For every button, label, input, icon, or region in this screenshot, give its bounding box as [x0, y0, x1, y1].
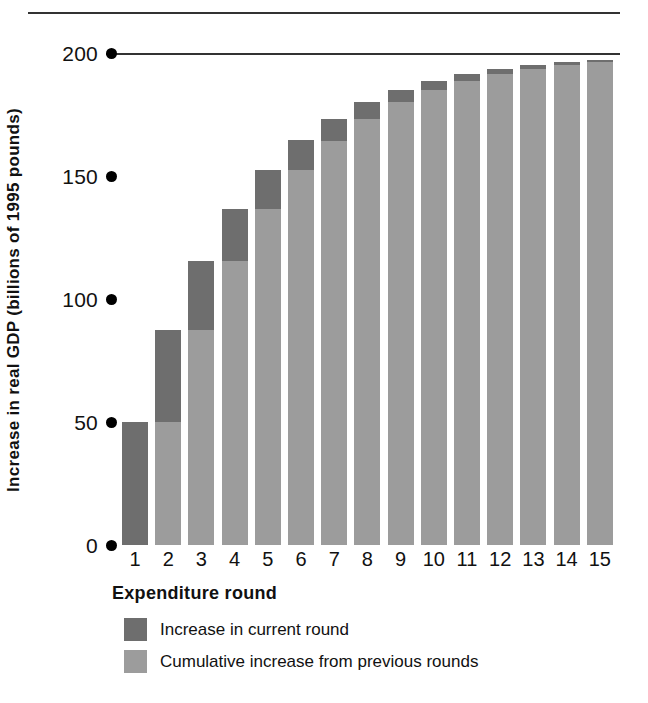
bar-segment-current-round — [388, 90, 414, 102]
bar-segment-current-round — [255, 170, 281, 209]
x-tick-label-4: 4 — [218, 548, 252, 570]
plot-area: 050100150200 — [0, 0, 648, 600]
x-tick-label-1: 1 — [118, 548, 152, 570]
x-tick-label-2: 2 — [151, 548, 185, 570]
bar-segment-cumulative — [321, 141, 347, 545]
bar-round-8 — [354, 102, 380, 545]
legend-item-1: Increase in current round — [124, 618, 478, 641]
y-tick-dot-icon — [106, 48, 117, 59]
legend-swatch-icon — [124, 650, 147, 673]
bar-segment-current-round — [354, 102, 380, 118]
x-tick-label-8: 8 — [350, 548, 384, 570]
y-axis-title: Increase in real GDP (billions of 1995 p… — [4, 0, 24, 600]
bar-round-2 — [155, 330, 181, 545]
bar-segment-cumulative — [421, 90, 447, 545]
bar-round-14 — [554, 62, 580, 545]
bar-segment-current-round — [122, 422, 148, 545]
bar-round-3 — [188, 261, 214, 545]
y-tick-label: 100 — [62, 289, 98, 310]
bar-segment-cumulative — [487, 74, 513, 545]
x-tick-label-6: 6 — [284, 548, 318, 570]
bar-segment-current-round — [155, 330, 181, 422]
bar-segment-current-round — [288, 140, 314, 169]
bar-segment-cumulative — [188, 330, 214, 545]
y-tick-label: 200 — [62, 43, 98, 64]
x-axis-tick-labels: 123456789101112131415 — [0, 548, 648, 578]
bar-round-5 — [255, 170, 281, 545]
bar-segment-cumulative — [155, 422, 181, 545]
bar-segment-current-round — [222, 209, 248, 261]
x-tick-label-13: 13 — [516, 548, 550, 570]
bar-segment-current-round — [454, 74, 480, 81]
legend-label: Increase in current round — [160, 621, 349, 638]
y-tick-label: 50 — [74, 412, 98, 433]
bar-round-11 — [454, 74, 480, 545]
bar-segment-cumulative — [520, 69, 546, 546]
y-tick-dot-icon — [106, 417, 117, 428]
bar-round-10 — [421, 81, 447, 545]
bar-round-12 — [487, 69, 513, 546]
multiplier-bar-chart-figure: 050100150200 Increase in real GDP (billi… — [0, 0, 648, 703]
y-tick-dot-icon — [106, 294, 117, 305]
bar-segment-current-round — [188, 261, 214, 330]
bar-round-4 — [222, 209, 248, 545]
x-tick-label-7: 7 — [317, 548, 351, 570]
bar-segment-cumulative — [288, 170, 314, 545]
bar-segment-current-round — [421, 81, 447, 90]
bar-round-9 — [388, 90, 414, 545]
x-tick-label-9: 9 — [384, 548, 418, 570]
bar-segment-cumulative — [255, 209, 281, 545]
legend-item-2: Cumulative increase from previous rounds — [124, 650, 478, 673]
bar-round-1 — [122, 422, 148, 545]
x-tick-label-12: 12 — [483, 548, 517, 570]
x-tick-label-3: 3 — [184, 548, 218, 570]
bar-segment-cumulative — [454, 81, 480, 545]
y-tick-dot-icon — [106, 171, 117, 182]
bar-segment-current-round — [321, 119, 347, 141]
bar-segment-cumulative — [222, 261, 248, 545]
x-tick-label-15: 15 — [583, 548, 617, 570]
bar-segment-cumulative — [388, 102, 414, 545]
legend-swatch-icon — [124, 618, 147, 641]
x-tick-label-11: 11 — [450, 548, 484, 570]
bar-round-15 — [587, 60, 613, 545]
bar-round-13 — [520, 65, 546, 545]
asymptote-line-200 — [106, 53, 620, 55]
legend-label: Cumulative increase from previous rounds — [160, 653, 478, 670]
bar-segment-cumulative — [587, 62, 613, 545]
bar-segment-cumulative — [354, 119, 380, 545]
chart-legend: Increase in current roundCumulative incr… — [124, 618, 478, 673]
x-tick-label-10: 10 — [417, 548, 451, 570]
bar-round-7 — [321, 119, 347, 545]
bar-round-6 — [288, 140, 314, 545]
x-tick-label-14: 14 — [550, 548, 584, 570]
x-tick-label-5: 5 — [251, 548, 285, 570]
y-tick-label: 150 — [62, 166, 98, 187]
x-axis-title: Expenditure round — [112, 583, 277, 604]
bar-segment-cumulative — [554, 65, 580, 545]
